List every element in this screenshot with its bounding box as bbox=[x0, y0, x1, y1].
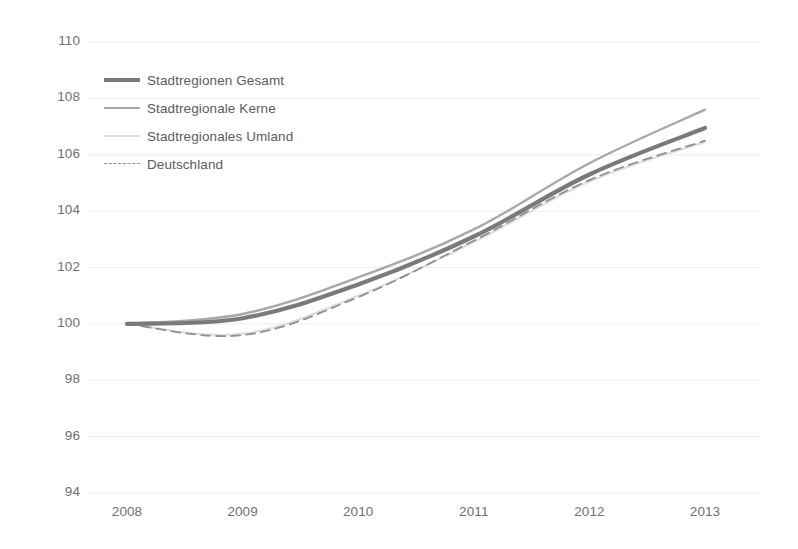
legend-label-stadtregionales-umland: Stadtregionales Umland bbox=[147, 129, 293, 144]
x-axis-tick-label: 2011 bbox=[444, 504, 504, 519]
chart-container: 110108106104102100989694 200820092010201… bbox=[0, 0, 798, 549]
legend-item-deutschland: Deutschland bbox=[104, 150, 434, 178]
x-axis-tick-label: 2008 bbox=[97, 504, 157, 519]
x-axis-tick-label: 2013 bbox=[675, 504, 735, 519]
x-axis-tick-label: 2010 bbox=[328, 504, 388, 519]
chart-legend: Stadtregionen Gesamt Stadtregionale Kern… bbox=[104, 66, 434, 178]
x-axis-tick-label: 2009 bbox=[213, 504, 273, 519]
y-axis-tick-label: 96 bbox=[34, 428, 80, 443]
y-axis-tick-label: 100 bbox=[34, 315, 80, 330]
y-axis-tick-label: 106 bbox=[34, 146, 80, 161]
legend-swatch-stadtregionale-kerne bbox=[104, 101, 140, 115]
legend-label-deutschland: Deutschland bbox=[147, 157, 223, 172]
legend-label-stadtregionale-kerne: Stadtregionale Kerne bbox=[147, 101, 276, 116]
legend-item-stadtregionen-gesamt: Stadtregionen Gesamt bbox=[104, 66, 434, 94]
x-axis-tick-label: 2012 bbox=[559, 504, 619, 519]
legend-swatch-stadtregionales-umland bbox=[104, 129, 140, 143]
y-axis-tick-label: 102 bbox=[34, 259, 80, 274]
legend-item-stadtregionales-umland: Stadtregionales Umland bbox=[104, 122, 434, 150]
legend-swatch-stadtregionen-gesamt bbox=[104, 73, 140, 87]
y-axis-tick-label: 104 bbox=[34, 202, 80, 217]
y-axis-tick-label: 94 bbox=[34, 484, 80, 499]
y-axis-tick-label: 110 bbox=[34, 33, 80, 48]
legend-label-stadtregionen-gesamt: Stadtregionen Gesamt bbox=[147, 73, 284, 88]
legend-item-stadtregionale-kerne: Stadtregionale Kerne bbox=[104, 94, 434, 122]
y-axis-tick-label: 98 bbox=[34, 371, 80, 386]
legend-swatch-deutschland bbox=[104, 157, 140, 171]
y-axis-tick-label: 108 bbox=[34, 89, 80, 104]
